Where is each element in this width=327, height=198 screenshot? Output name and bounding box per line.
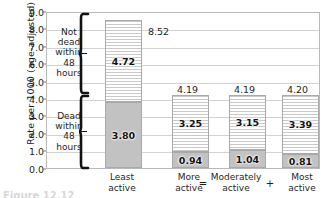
brace-label-dead: Dead within 48 hours	[48, 111, 90, 152]
y-tick-label-6: 6.0	[4, 59, 44, 70]
brace-not-dead-line5: hours	[48, 68, 90, 78]
brace-dead-line3: 48	[48, 131, 90, 141]
brace-label-not-dead: Not dead within 48 hours	[48, 27, 90, 78]
bar-segment-upper-most-active: 3.39	[282, 95, 319, 154]
x-label-moderately-active-line1: Moderately	[206, 172, 266, 183]
bar-value-upper-more-active: 3.25	[173, 118, 208, 129]
bar-value-lower-most-active: 0.81	[283, 155, 318, 166]
bar-total-more-active: 4.19	[177, 84, 198, 95]
x-axis-label-least-active: Least active	[92, 172, 152, 193]
bar-most-active[interactable]: 3.39 0.81	[282, 95, 319, 168]
y-tick-label-8: 8.0	[4, 24, 44, 35]
y-tick-label-4: 4.0	[4, 94, 44, 105]
x-label-least-active-line2: active	[92, 183, 152, 194]
bar-total-least-active: 8.52	[148, 26, 169, 37]
bar-value-upper-least-active: 4.72	[106, 55, 141, 66]
y-tick-label-1: 1.0	[4, 146, 44, 157]
bar-value-upper-most-active: 3.39	[283, 119, 318, 130]
y-tick-label-7: 7.0	[4, 41, 44, 52]
bar-value-lower-more-active: 0.94	[173, 154, 208, 165]
brace-dead-line4: hours	[48, 142, 90, 152]
bar-segment-lower-most-active: 0.81	[282, 154, 319, 168]
x-label-most-active-line1: Most	[272, 172, 327, 183]
figure-caption: Figure 12.12	[3, 190, 74, 198]
bar-total-most-active: 4.20	[287, 84, 308, 95]
x-label-least-active-line1: Least	[92, 172, 152, 183]
brace-not-dead-line2: dead	[48, 37, 90, 47]
y-tick-label-9: 9.0	[4, 7, 44, 18]
bar-moderately-active[interactable]: 3.15 1.04	[229, 95, 266, 168]
bar-value-lower-least-active: 3.80	[106, 129, 141, 140]
brace-not-dead-line1: Not	[48, 27, 90, 37]
x-axis-label-most-active: Most active	[272, 172, 327, 193]
chart-figure: Rate per 1000 (age-adjusted) 9.0 8.0 7.0…	[0, 0, 327, 198]
bar-value-upper-moderately-active: 3.15	[230, 117, 265, 128]
bar-least-active[interactable]: 4.72 3.80	[105, 20, 142, 169]
x-axis-label-moderately-active: Moderately active	[206, 172, 266, 193]
bar-segment-upper-moderately-active: 3.15	[229, 95, 266, 150]
brace-not-dead-line3: within	[48, 47, 90, 57]
brace-dead-line1: Dead	[48, 111, 90, 121]
x-label-most-active-line2: active	[272, 183, 327, 194]
y-tick-label-2: 2.0	[4, 128, 44, 139]
bar-total-moderately-active: 4.19	[234, 84, 255, 95]
y-tick-label-0: 0.0	[4, 163, 44, 174]
bar-segment-upper-more-active: 3.25	[172, 95, 209, 152]
brace-dead-line2: within	[48, 121, 90, 131]
bar-segment-lower-more-active: 0.94	[172, 152, 209, 168]
bar-segment-lower-least-active: 3.80	[105, 102, 142, 168]
y-tick-label-5: 5.0	[4, 76, 44, 87]
y-tick-label-3: 3.0	[4, 111, 44, 122]
bar-segment-upper-least-active: 4.72	[105, 20, 142, 102]
bar-more-active[interactable]: 3.25 0.94	[172, 95, 209, 168]
brace-not-dead-line4: 48	[48, 58, 90, 68]
x-label-moderately-active-line2: active	[206, 183, 266, 194]
bar-value-lower-moderately-active: 1.04	[230, 153, 265, 164]
bar-segment-lower-moderately-active: 1.04	[229, 150, 266, 168]
